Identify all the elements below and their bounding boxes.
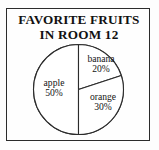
pie-label-apple-percent: 50% (33, 88, 75, 98)
pie-label-banana-percent: 20% (79, 64, 123, 74)
pie-label-orange-name: orange (90, 91, 116, 102)
pie-chart-figure: FAVORITE FRUITS IN ROOM 12 apple 50% ban… (0, 0, 159, 150)
pie-graphic (0, 0, 159, 150)
pie-label-orange-percent: 30% (81, 102, 125, 112)
pie-label-banana: banana 20% (79, 54, 123, 75)
pie-label-banana-name: banana (87, 53, 114, 64)
pie-svg (0, 0, 159, 150)
pie-label-orange: orange 30% (81, 92, 125, 113)
pie-label-apple: apple 50% (33, 78, 75, 99)
pie-label-apple-name: apple (44, 77, 65, 88)
